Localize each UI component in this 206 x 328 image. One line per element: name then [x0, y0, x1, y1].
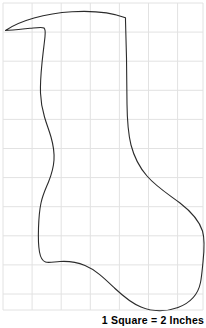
- scale-caption: 1 Square = 2 Inches: [102, 313, 204, 327]
- diagram-background: [0, 0, 206, 328]
- stocking-pattern-diagram: [0, 0, 206, 328]
- pattern-page: 1 Square = 2 Inches: [0, 0, 206, 328]
